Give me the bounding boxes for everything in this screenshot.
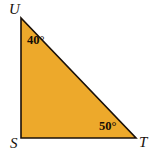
angle-label-at-t: 50° xyxy=(99,120,117,133)
vertex-label-s: S xyxy=(10,136,18,151)
vertex-label-t: T xyxy=(139,135,147,150)
angle-label-at-u: 40° xyxy=(27,34,45,47)
triangle-shape xyxy=(0,0,154,154)
vertex-label-u: U xyxy=(9,2,20,17)
geometry-figure-canvas: U S T 40° 50° xyxy=(0,0,154,154)
